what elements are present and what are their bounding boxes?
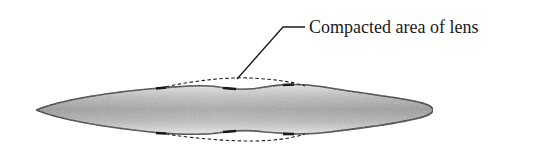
leader-line	[237, 27, 305, 79]
lens-compaction-diagram: Compacted area of lens	[0, 0, 534, 146]
contour-junction-mark	[223, 131, 236, 132]
contour-junction-mark	[283, 85, 294, 86]
lens-body	[36, 84, 433, 134]
callout-label: Compacted area of lens	[309, 17, 478, 37]
contour-junction-mark	[223, 88, 236, 89]
